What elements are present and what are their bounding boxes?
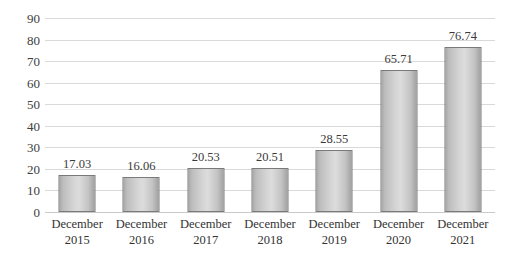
bar-slot: 76.74 (431, 18, 495, 212)
y-axis-tick-label: 30 (6, 141, 40, 154)
x-axis-category-label: December2017 (174, 216, 238, 248)
x-axis-category-line-2: 2015 (45, 232, 109, 248)
bars-layer: 17.0316.0620.5320.5128.5565.7176.74 (45, 18, 495, 212)
y-axis-tick-label: 40 (6, 119, 40, 132)
bar-slot: 17.03 (45, 18, 109, 212)
bar[interactable] (187, 168, 224, 212)
x-axis-category-line-2: 2021 (431, 232, 495, 248)
bar-value-label: 20.53 (192, 151, 220, 164)
y-axis-tick-label: 10 (6, 184, 40, 197)
bar[interactable] (444, 47, 481, 212)
bar[interactable] (123, 177, 160, 212)
x-axis-category-line-1: December (51, 217, 102, 231)
bar-slot: 20.51 (238, 18, 302, 212)
x-axis-category-line-1: December (116, 217, 167, 231)
bar[interactable] (380, 70, 417, 212)
x-axis-category-line-2: 2017 (174, 232, 238, 248)
bar-value-label: 17.03 (63, 158, 91, 171)
y-axis-tick-label: 90 (6, 12, 40, 25)
bar-slot: 28.55 (302, 18, 366, 212)
x-axis-category-line-2: 2016 (109, 232, 173, 248)
axis-baseline (45, 212, 495, 213)
x-axis-category-label: December2021 (431, 216, 495, 248)
x-axis-category-label: December2020 (366, 216, 430, 248)
x-axis-category-line-1: December (437, 217, 488, 231)
y-axis: 9080706050403020100 (0, 18, 40, 212)
bar-slot: 16.06 (109, 18, 173, 212)
x-axis-category-line-1: December (244, 217, 295, 231)
x-axis-category-line-2: 2019 (302, 232, 366, 248)
bar-slot: 65.71 (366, 18, 430, 212)
bar-chart: 9080706050403020100 17.0316.0620.5320.51… (0, 0, 508, 268)
x-axis-category-line-1: December (309, 217, 360, 231)
bar[interactable] (316, 150, 353, 212)
x-axis-category-label: December2015 (45, 216, 109, 248)
bar-value-label: 20.51 (256, 151, 284, 164)
y-axis-tick-label: 50 (6, 98, 40, 111)
x-axis-category-line-2: 2018 (238, 232, 302, 248)
bar-value-label: 76.74 (449, 30, 477, 43)
x-axis-category-line-1: December (373, 217, 424, 231)
bar[interactable] (251, 168, 288, 212)
x-axis-category-label: December2018 (238, 216, 302, 248)
x-axis: December2015December2016December2017Dece… (45, 216, 495, 262)
y-axis-tick-label: 70 (6, 55, 40, 68)
x-axis-category-label: December2019 (302, 216, 366, 248)
x-axis-category-line-2: 2020 (366, 232, 430, 248)
y-axis-tick-label: 20 (6, 162, 40, 175)
bar-value-label: 65.71 (385, 53, 413, 66)
x-axis-category-label: December2016 (109, 216, 173, 248)
x-axis-category-line-1: December (180, 217, 231, 231)
bar-value-label: 16.06 (127, 160, 155, 173)
bar-value-label: 28.55 (320, 133, 348, 146)
bar[interactable] (59, 175, 96, 212)
bar-slot: 20.53 (174, 18, 238, 212)
y-axis-tick-label: 0 (6, 206, 40, 219)
y-axis-tick-label: 80 (6, 33, 40, 46)
y-axis-tick-label: 60 (6, 76, 40, 89)
